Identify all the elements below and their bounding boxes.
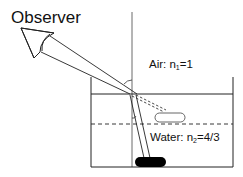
virtual-ray-1	[132, 96, 164, 112]
real-object	[135, 157, 166, 167]
virtual-ray-2	[136, 95, 166, 110]
virtual-image-object	[155, 113, 185, 122]
air-ray-upper	[50, 36, 137, 94]
water-label: Water: n2=4/3	[150, 131, 220, 144]
air-ray-lower	[41, 52, 130, 94]
air-label: Air: n1=1	[149, 58, 193, 71]
observer-label: Observer	[11, 8, 81, 27]
incidence-angle-arc	[124, 80, 132, 84]
refraction-diagram: Observer Air: n1=1 Water: n2=4/3	[0, 0, 243, 177]
